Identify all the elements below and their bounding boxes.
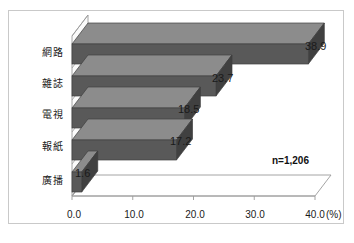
chart-container: 網路 雜誌 電視 報紙 廣播 38.9 23.7 18.5 17.2 1.6 n… <box>0 0 354 243</box>
value-label-0: 38.9 <box>305 40 326 52</box>
xtick-label-1: 10.0 <box>117 209 151 220</box>
xtick-label-2: 20.0 <box>178 209 212 220</box>
axis-unit-label: (%) <box>326 209 342 220</box>
value-label-2: 18.5 <box>178 103 199 115</box>
category-label-2: 電視 <box>18 106 64 121</box>
category-label-1: 雜誌 <box>18 75 64 90</box>
xtick-label-0: 0.0 <box>57 209 91 220</box>
value-label-1: 23.7 <box>212 72 233 84</box>
bar-chart-plot <box>0 0 354 243</box>
category-label-4: 廣播 <box>18 172 64 187</box>
category-label-0: 網路 <box>18 44 64 59</box>
xtick-label-3: 30.0 <box>238 209 272 220</box>
value-label-3: 17.2 <box>170 135 191 147</box>
category-label-3: 報紙 <box>18 138 64 153</box>
sample-size-annotation: n=1,206 <box>272 155 309 166</box>
value-label-4: 1.6 <box>75 167 90 179</box>
